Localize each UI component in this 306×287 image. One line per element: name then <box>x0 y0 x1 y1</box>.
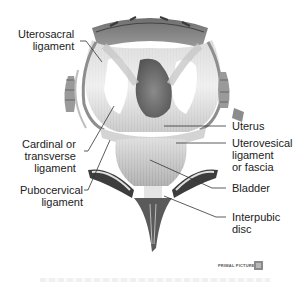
brand-logo-icon <box>254 261 263 270</box>
label-interpubic-disc: Interpubic disc <box>232 211 280 235</box>
perineal-structure <box>134 198 172 252</box>
label-pubocervical-ligament: Pubocervical ligament <box>20 184 83 208</box>
label-uterosacral-ligament: Uterosacral ligament <box>18 28 74 52</box>
interpubic-disc <box>144 186 162 200</box>
label-uterovesical-ligament: Uterovesical ligament or fascia <box>232 137 293 173</box>
label-cardinal-ligament: Cardinal or transverse ligament <box>22 138 76 174</box>
sacrum <box>92 17 208 48</box>
label-uterus: Uterus <box>232 120 264 132</box>
anatomy-diagram: Uterosacral ligament Cardinal or transve… <box>0 0 306 287</box>
label-bladder: Bladder <box>232 182 270 194</box>
footer-strip <box>40 278 270 282</box>
right-adnexa <box>218 72 244 122</box>
brand-name: PRIMAL PICTURES <box>218 263 258 268</box>
